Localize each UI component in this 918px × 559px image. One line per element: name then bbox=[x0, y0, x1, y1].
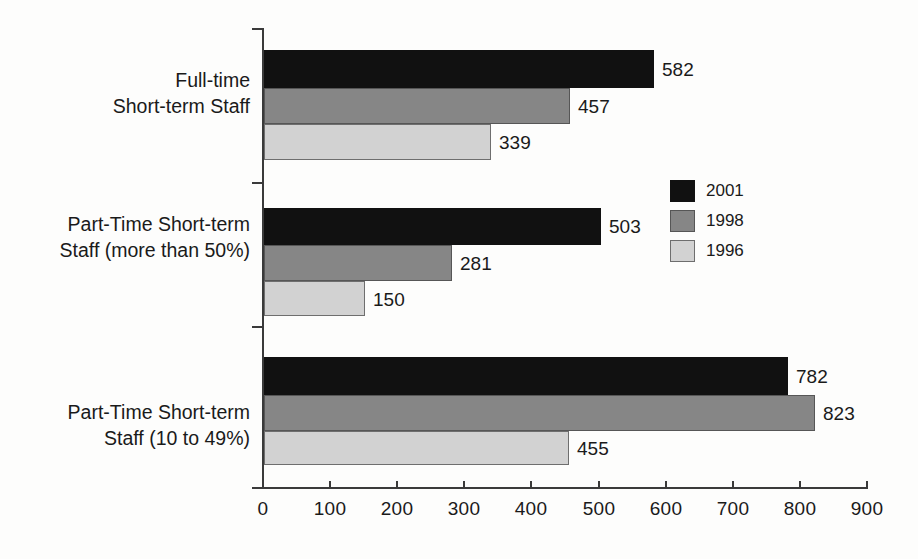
x-tick-300 bbox=[463, 481, 465, 489]
bar-value-1996-full-time-short-term-staff: 339 bbox=[499, 132, 531, 154]
x-tick-500 bbox=[598, 481, 600, 489]
x-tick-0 bbox=[262, 481, 264, 489]
bar-value-1998-full-time-short-term-staff: 457 bbox=[578, 96, 610, 118]
legend-swatch-1996-icon bbox=[670, 240, 695, 262]
bar-value-2001-part-time-10-to-49: 782 bbox=[796, 366, 828, 388]
bar-value-2001-full-time-short-term-staff: 582 bbox=[662, 59, 694, 81]
legend-item-1996: 1996 bbox=[670, 236, 744, 266]
legend: 2001 1998 1996 bbox=[670, 176, 744, 266]
legend-item-2001: 2001 bbox=[670, 176, 744, 206]
bar-1998-part-time-more-than-50 bbox=[264, 245, 452, 281]
bar-value-1996-part-time-more-than-50: 150 bbox=[373, 289, 405, 311]
bar-value-1998-part-time-more-than-50: 281 bbox=[460, 253, 492, 275]
legend-swatch-1998-icon bbox=[670, 210, 695, 232]
x-tick-label-500: 500 bbox=[583, 498, 616, 520]
bar-1998-part-time-10-to-49 bbox=[264, 395, 815, 431]
y-axis-tick-top bbox=[252, 28, 263, 30]
x-tick-200 bbox=[396, 481, 398, 489]
legend-label-1996: 1996 bbox=[706, 241, 744, 261]
bar-value-1998-part-time-10-to-49: 823 bbox=[823, 403, 855, 425]
x-tick-label-800: 800 bbox=[784, 498, 817, 520]
x-tick-label-0: 0 bbox=[258, 498, 269, 520]
y-axis-tick-group-2-3 bbox=[252, 326, 263, 328]
x-tick-label-900: 900 bbox=[851, 498, 884, 520]
x-tick-600 bbox=[665, 481, 667, 489]
bar-1998-full-time-short-term-staff bbox=[264, 88, 570, 124]
bar-value-2001-part-time-more-than-50: 503 bbox=[609, 216, 641, 238]
bar-value-1996-part-time-10-to-49: 455 bbox=[577, 438, 609, 460]
x-tick-label-100: 100 bbox=[314, 498, 347, 520]
bar-2001-part-time-more-than-50 bbox=[264, 208, 601, 245]
legend-label-1998: 1998 bbox=[706, 211, 744, 231]
x-tick-800 bbox=[799, 481, 801, 489]
bar-chart: 0 100 200 300 400 500 600 700 800 900 Fu… bbox=[0, 0, 918, 559]
x-tick-400 bbox=[530, 481, 532, 489]
bar-1996-full-time-short-term-staff bbox=[264, 124, 491, 160]
category-label-full-time-short-term-staff: Full-time Short-term Staff bbox=[113, 67, 250, 119]
category-label-part-time-more-than-50: Part-Time Short-term Staff (more than 50… bbox=[60, 211, 250, 263]
category-label-part-time-10-to-49: Part-Time Short-term Staff (10 to 49%) bbox=[68, 399, 250, 451]
y-axis-tick-group-1-2 bbox=[252, 182, 263, 184]
bar-2001-part-time-10-to-49 bbox=[264, 357, 788, 395]
x-tick-700 bbox=[732, 481, 734, 489]
x-axis-line bbox=[262, 487, 867, 489]
bar-1996-part-time-more-than-50 bbox=[264, 281, 365, 316]
x-tick-900 bbox=[866, 481, 868, 489]
legend-swatch-2001-icon bbox=[670, 180, 695, 202]
x-tick-label-700: 700 bbox=[717, 498, 750, 520]
x-tick-label-300: 300 bbox=[448, 498, 481, 520]
bar-2001-full-time-short-term-staff bbox=[264, 50, 654, 88]
x-tick-label-200: 200 bbox=[381, 498, 414, 520]
bar-1996-part-time-10-to-49 bbox=[264, 431, 569, 465]
legend-item-1998: 1998 bbox=[670, 206, 744, 236]
x-tick-label-400: 400 bbox=[515, 498, 548, 520]
legend-label-2001: 2001 bbox=[706, 181, 744, 201]
x-tick-100 bbox=[329, 481, 331, 489]
x-tick-label-600: 600 bbox=[650, 498, 683, 520]
